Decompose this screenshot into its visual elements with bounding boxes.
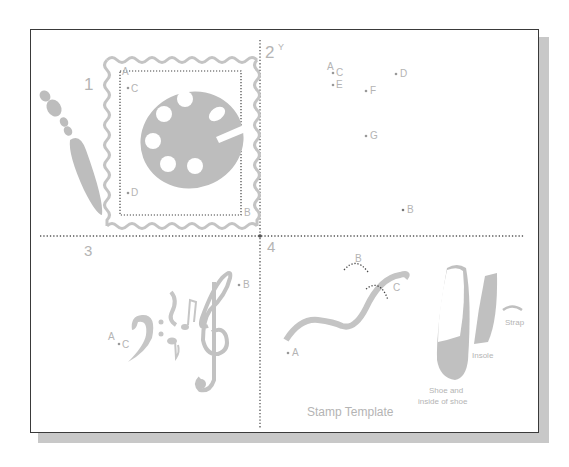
svg-text:Insole: Insole [472,351,494,360]
svg-text:Shoe and: Shoe and [429,386,463,395]
svg-text:C: C [131,83,138,94]
svg-text:A: A [292,347,299,358]
panel-2-number: 2 [265,43,274,62]
svg-text:B: B [407,204,414,215]
origin-marker [258,234,262,238]
curved-path-shape [286,274,407,340]
svg-text:C: C [393,282,400,293]
figure-canvas: 1 A C D B 2 Y A C E D F [0,0,569,467]
svg-text:Strap: Strap [505,318,525,327]
panel-1-number: 1 [84,75,93,94]
shoe-part-labels: Strap Insole Shoe and inside of shoe [418,318,525,406]
svg-text:D: D [131,187,138,198]
arc-b-dotted [344,263,368,272]
svg-text:D: D [400,68,407,79]
panel-4-number: 4 [267,238,275,255]
paintbrush-icon [37,88,102,215]
svg-text:F: F [370,85,376,96]
svg-text:A: A [122,66,129,77]
svg-text:A: A [108,331,115,342]
svg-text:G: G [370,130,378,141]
svg-text:B: B [355,253,362,264]
svg-text:inside of shoe: inside of shoe [418,397,468,406]
svg-text:C: C [336,67,343,78]
svg-text:B: B [243,279,250,290]
svg-text:B: B [244,207,251,218]
svg-text:A: A [327,61,334,72]
stamp-template-caption: Stamp Template [307,405,394,419]
panel-3-number: 3 [84,242,92,259]
panel-2-y-axis-label: Y [278,42,284,52]
music-notes-icon [128,273,230,390]
svg-text:E: E [336,79,343,90]
svg-text:C: C [122,339,129,350]
paint-palette-icon [127,77,258,203]
panel-4-point-labels: B C A [287,253,401,358]
panel-2-point-labels: A C E D F G B [327,61,414,215]
